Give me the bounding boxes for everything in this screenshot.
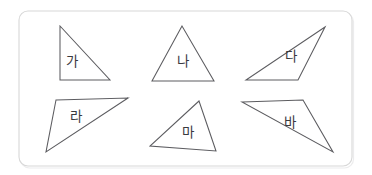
triangle-da-label: 다 — [285, 48, 298, 64]
figure-canvas: 가나다라마바 — [0, 0, 372, 175]
triangle-ma-label: 마 — [182, 124, 195, 140]
triangle-ba-label: 바 — [284, 114, 297, 130]
triangle-ra-label: 라 — [70, 108, 83, 124]
figure-worksheet: 가나다라마바 — [0, 0, 372, 175]
triangle-ga-label: 가 — [66, 53, 78, 69]
triangle-na-label: 나 — [177, 53, 189, 69]
